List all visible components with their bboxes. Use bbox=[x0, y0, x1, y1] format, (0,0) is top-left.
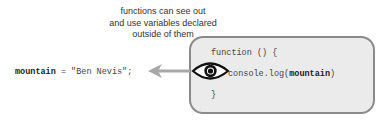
eye-icon bbox=[193, 64, 228, 79]
diagram-graphics bbox=[0, 0, 390, 121]
arrow-left-icon bbox=[148, 64, 190, 78]
